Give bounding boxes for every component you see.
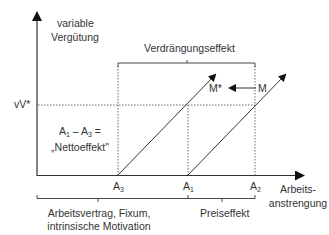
- line-m: [188, 75, 285, 175]
- price-effect-label: Preiseffekt: [200, 207, 249, 220]
- a2-label: A2: [250, 180, 261, 196]
- contract-bracket: [37, 195, 188, 202]
- vv-star-label: vV*: [14, 98, 30, 111]
- x-axis-label-line1: Arbeits-: [268, 182, 328, 196]
- a1-label: A1: [183, 180, 194, 196]
- net-effect-label: A1 – A3 = „Nettoeffekt": [48, 125, 112, 154]
- y-axis-label: variable Vergütung: [51, 16, 99, 44]
- m-label: M: [258, 82, 267, 95]
- net-effect-formula: A1 – A3 =: [48, 125, 112, 141]
- crowding-out-label: Verdrängungseffekt: [144, 42, 235, 55]
- a3-label: A3: [113, 180, 124, 196]
- y-axis-label-line1: variable: [51, 16, 99, 30]
- price-effect-bracket: [188, 195, 255, 202]
- net-effect-text: „Nettoeffekt": [48, 141, 112, 154]
- x-axis-label: Arbeits- anstrengung: [268, 182, 328, 210]
- line-m-star: [118, 75, 215, 175]
- y-axis-label-line2: Vergütung: [51, 30, 99, 44]
- contract-label-line2: intrinsische Motivation: [44, 220, 154, 233]
- crowding-out-bracket: [118, 60, 255, 67]
- x-axis-label-line2: anstrengung: [268, 196, 328, 210]
- m-star-label: M*: [209, 82, 222, 95]
- contract-label-line1: Arbeitsvertrag, Fixum,: [44, 207, 154, 220]
- contract-label: Arbeitsvertrag, Fixum, intrinsische Moti…: [44, 207, 154, 233]
